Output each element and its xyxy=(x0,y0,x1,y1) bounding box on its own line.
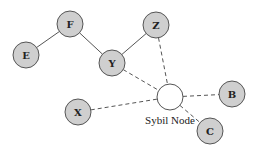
node-label: Z xyxy=(152,20,159,31)
node-label: X xyxy=(74,107,82,118)
node-f: F xyxy=(57,11,83,37)
node-label: F xyxy=(66,19,73,30)
node-label: E xyxy=(22,50,30,61)
edge-y-z xyxy=(122,34,146,55)
edge-x-s xyxy=(91,99,157,110)
node-y: Y xyxy=(99,50,125,76)
node-label: C xyxy=(206,126,214,137)
node-b: B xyxy=(219,81,245,107)
edge-f-y xyxy=(80,33,103,54)
node-x: X xyxy=(65,99,91,125)
node-c: C xyxy=(197,118,223,144)
edges-layer xyxy=(37,32,219,123)
edge-z-s xyxy=(159,38,168,84)
edge-s-b xyxy=(183,95,219,97)
edge-y-s xyxy=(123,70,159,91)
node-z: Z xyxy=(143,12,169,38)
node-circle xyxy=(157,84,183,110)
node-e: E xyxy=(13,42,39,68)
node-label: Y xyxy=(107,58,116,69)
edge-e-f xyxy=(37,32,60,48)
sybil-node xyxy=(157,84,183,110)
sybil-network-diagram: FEYZXBC Sybil Node xyxy=(0,0,256,156)
sybil-node-caption: Sybil Node xyxy=(145,114,195,126)
nodes-layer: FEYZXBC xyxy=(13,11,245,144)
node-label: B xyxy=(228,89,236,100)
